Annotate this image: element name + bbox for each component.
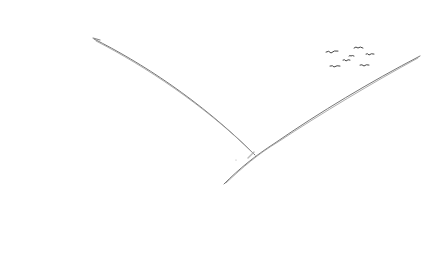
bird-icon: [360, 65, 369, 66]
bird-icon: [326, 51, 338, 53]
bird-icon: [343, 60, 350, 61]
flock-of-birds: [326, 47, 374, 67]
bird-icon: [366, 54, 374, 55]
bird-icon: [349, 56, 354, 57]
bird-icon: [330, 66, 340, 67]
right-slope-line: [224, 56, 420, 184]
pencil-mark: [235, 159, 236, 160]
left-slope-line: [93, 38, 255, 155]
bird-icon: [354, 47, 363, 48]
